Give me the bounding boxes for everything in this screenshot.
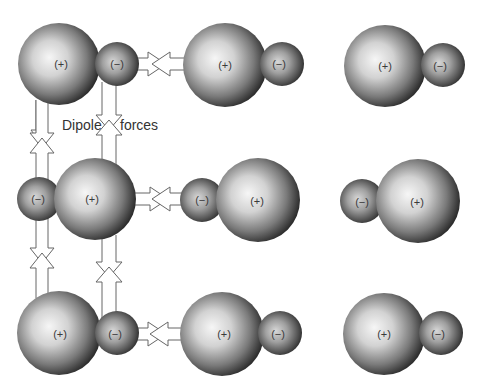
force-arrow-vertical-left-upper bbox=[30, 100, 54, 186]
negative-charge-label: (−) bbox=[272, 58, 286, 70]
negative-charge-label: (−) bbox=[355, 196, 369, 208]
molecule-row1-col2: (+) (−) bbox=[183, 23, 304, 107]
positive-charge-label: (+) bbox=[85, 193, 99, 205]
positive-charge-label: (+) bbox=[53, 328, 67, 340]
positive-charge-label: (+) bbox=[217, 328, 231, 340]
force-arrow-vertical-left-lower bbox=[30, 215, 54, 298]
positive-charge-label: (+) bbox=[54, 58, 68, 70]
positive-charge-label: (+) bbox=[250, 195, 264, 207]
negative-charge-label: (−) bbox=[31, 193, 45, 205]
negative-charge-label: (−) bbox=[271, 328, 285, 340]
force-arrow-horizontal-row3 bbox=[136, 322, 184, 346]
force-arrow-horizontal-row2 bbox=[134, 187, 186, 211]
positive-charge-label: (+) bbox=[378, 60, 392, 72]
molecule-row3-col3: (+) (−) bbox=[343, 293, 463, 375]
molecule-row2-col3: (−) (+) bbox=[340, 159, 460, 243]
negative-charge-label: (−) bbox=[108, 328, 122, 340]
negative-charge-label: (−) bbox=[195, 194, 209, 206]
molecule-row3-col2: (+) (−) bbox=[180, 292, 302, 376]
molecule-row2-col1: (−) (+) bbox=[17, 158, 136, 240]
forces-label: forces bbox=[120, 117, 158, 133]
dipole-forces-diagram: (+) (−) (+) (−) (+) (−) (−) (+) (−) (+) … bbox=[0, 0, 477, 388]
negative-charge-label: (−) bbox=[110, 58, 124, 70]
force-arrow-vertical-right-lower bbox=[96, 235, 122, 320]
positive-charge-label: (+) bbox=[410, 196, 424, 208]
force-arrow-horizontal-row1 bbox=[134, 52, 188, 76]
molecule-row2-col2: (−) (+) bbox=[180, 158, 300, 242]
molecule-row3-col1: (+) (−) bbox=[17, 291, 139, 375]
positive-charge-label: (+) bbox=[377, 328, 391, 340]
positive-charge-label: (+) bbox=[218, 59, 232, 71]
molecule-row1-col1: (+) (−) bbox=[18, 23, 139, 105]
negative-charge-label: (−) bbox=[431, 328, 445, 340]
dipole-label: Dipole bbox=[62, 117, 102, 133]
molecule-row1-col3: (+) (−) bbox=[344, 25, 465, 107]
negative-charge-label: (−) bbox=[433, 60, 447, 72]
